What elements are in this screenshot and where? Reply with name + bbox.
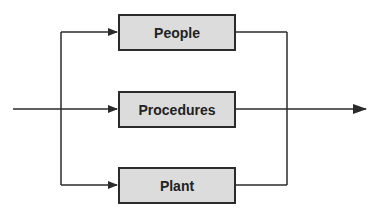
- node-label: People: [154, 25, 200, 41]
- node-people: People: [118, 14, 236, 51]
- node-plant: Plant: [118, 167, 236, 204]
- node-procedures: Procedures: [118, 91, 236, 128]
- diagram-canvas: People Procedures Plant: [0, 0, 375, 212]
- node-label: Procedures: [138, 102, 215, 118]
- node-label: Plant: [160, 178, 194, 194]
